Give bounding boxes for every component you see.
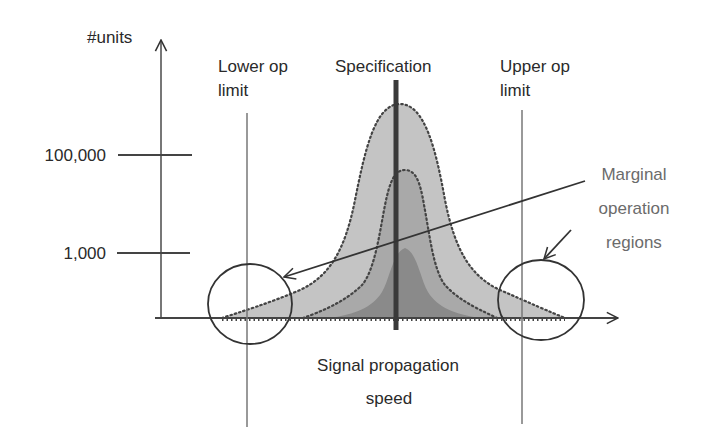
lower-limit-label-line1: Lower op <box>218 57 288 76</box>
x-axis-label-line1: Signal propagation <box>317 356 459 375</box>
y-axis-label: #units <box>87 28 132 47</box>
tick-label-100000: 100,000 <box>45 146 106 165</box>
upper-limit-label-line1: Upper op <box>500 57 570 76</box>
lower-limit-label-line2: limit <box>218 81 248 100</box>
tick-label-1000: 1,000 <box>63 244 106 263</box>
specification-label: Specification <box>335 57 431 76</box>
upper-region-pointer-arrow <box>544 230 571 259</box>
x-axis-label-line2: speed <box>366 389 412 408</box>
annotation-line3: regions <box>606 233 662 252</box>
upper-limit-label-line2: limit <box>500 81 530 100</box>
annotation-line2: operation <box>599 199 670 218</box>
marginal-operation-diagram: 100,000 1,000 #units Lower op limit Uppe… <box>0 0 704 444</box>
annotation-line1: Marginal <box>601 165 666 184</box>
